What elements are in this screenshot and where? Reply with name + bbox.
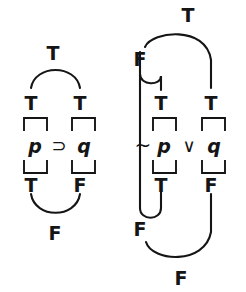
label-left-bottom-result: F (49, 222, 62, 244)
label-right-top-result: T (182, 4, 195, 26)
negation-tilde-icon: ~ (135, 133, 152, 157)
formula-disjunction: T F T T ~ p ∨ q T F F F (134, 4, 225, 289)
label-left-bottom-q: F (74, 174, 87, 196)
label-right-top-q: T (205, 92, 218, 114)
label-right-top-p: T (155, 92, 168, 114)
label-right-bottom-q: F (205, 174, 218, 196)
connective-horseshoe-icon: ⊃ (51, 135, 66, 156)
label-left-top-p: T (25, 92, 38, 114)
variable-q-left-formula: q (77, 135, 91, 157)
label-left-top-result: T (47, 42, 60, 64)
label-left-bottom-p: T (25, 174, 38, 196)
formula-conditional: T T T p ⊃ q T F F (24, 42, 95, 244)
upper-arc-left-formula (31, 70, 80, 88)
label-right-bottom-result: F (175, 267, 188, 289)
connective-wedge-icon: ∨ (182, 135, 195, 156)
label-left-top-q: T (74, 92, 87, 114)
variable-p-left-formula: p (27, 135, 42, 157)
label-right-bottom-p: T (155, 174, 168, 196)
upper-outer-arc-right-formula (145, 34, 211, 88)
label-right-top-negation: F (134, 48, 147, 70)
truth-value-diagram: T T T p ⊃ q T F F (0, 0, 246, 292)
lower-outer-arc-right-formula (146, 194, 211, 257)
variable-p-right-formula: p (156, 135, 171, 157)
label-right-bottom-negation: F (134, 218, 147, 240)
variable-q-right-formula: q (207, 135, 221, 157)
lower-arc-left-formula (31, 194, 80, 213)
